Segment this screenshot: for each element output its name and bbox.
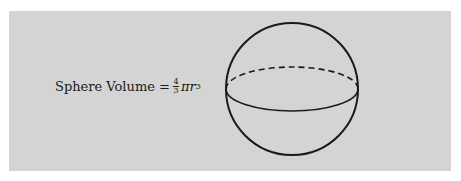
sphere-diagram — [0, 0, 461, 181]
equator-back-dashed — [226, 67, 358, 89]
sphere-outline — [226, 23, 358, 155]
equator-front — [226, 89, 358, 111]
